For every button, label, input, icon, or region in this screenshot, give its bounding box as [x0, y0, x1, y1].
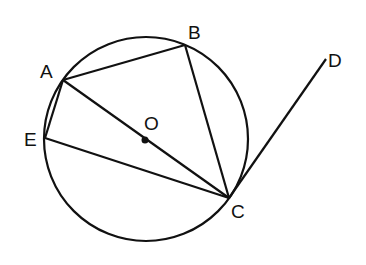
- label-o: O: [144, 113, 159, 134]
- label-e: E: [24, 129, 37, 150]
- segment-ec: [45, 138, 229, 198]
- center-point-o: [142, 137, 149, 144]
- label-a: A: [40, 61, 53, 82]
- segment-ab: [63, 45, 185, 80]
- segment-bc: [185, 45, 229, 198]
- label-b: B: [188, 22, 201, 43]
- segment-cd-tangent: [229, 59, 326, 198]
- geometry-diagram: A B C D E O: [0, 0, 366, 265]
- label-d: D: [328, 50, 342, 71]
- label-c: C: [231, 201, 245, 222]
